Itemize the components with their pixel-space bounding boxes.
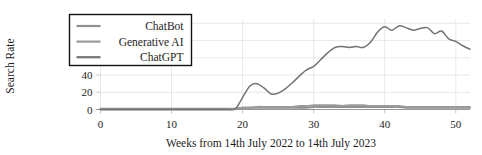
- x-tick-label: 40: [379, 118, 391, 130]
- x-tick-label: 30: [308, 118, 320, 130]
- plot-canvas: 020406080100 01020304050 Search Rate Wee…: [0, 0, 482, 155]
- x-tick-label: 10: [166, 118, 178, 130]
- y-axis-title: Search Rate: [4, 38, 16, 93]
- legend-label-chatgpt: ChatGPT: [140, 51, 183, 63]
- legend-label-generative-ai: Generative AI: [119, 36, 184, 48]
- y-tick-label: 20: [82, 86, 94, 98]
- x-tick-label: 0: [98, 118, 104, 130]
- y-tick-label: 0: [87, 104, 93, 116]
- y-tick-label: 40: [82, 69, 94, 81]
- legend-label-chatbot: ChatBot: [145, 20, 184, 32]
- legend: ChatBotGenerative AIChatGPT: [70, 15, 192, 66]
- search-rate-line-chart: 020406080100 01020304050 Search Rate Wee…: [0, 0, 482, 155]
- x-axis-tick-labels: 01020304050: [98, 118, 462, 130]
- x-tick-label: 50: [450, 118, 462, 130]
- x-tick-label: 20: [237, 118, 249, 130]
- x-axis-title: Weeks from 14th July 2022 to 14th July 2…: [166, 137, 376, 150]
